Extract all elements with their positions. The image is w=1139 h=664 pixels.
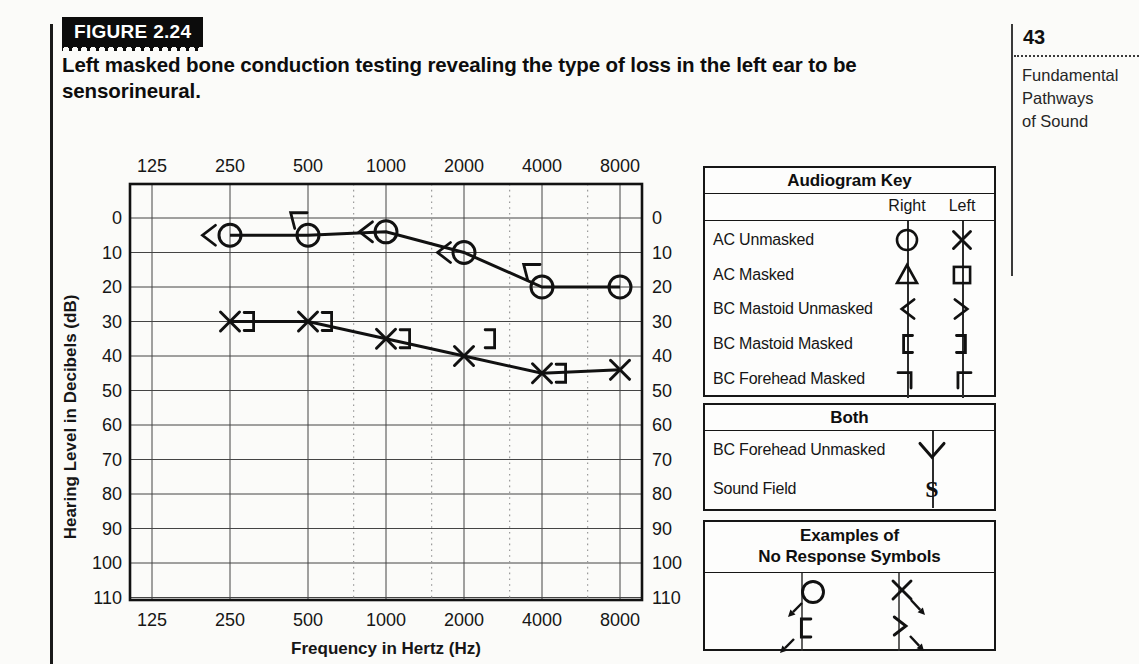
key-row-label: AC Masked bbox=[705, 266, 794, 284]
examples-title-line2: No Response Symbols bbox=[705, 546, 994, 567]
svg-text:20: 20 bbox=[652, 277, 672, 297]
svg-text:250: 250 bbox=[215, 156, 245, 176]
audiogram-key-panel: Audiogram Key Right Left AC Unmasked AC … bbox=[703, 166, 996, 397]
svg-text:110: 110 bbox=[93, 588, 122, 608]
key-rows: AC Unmasked AC Masked BC Mastoid Unmaske… bbox=[705, 221, 994, 398]
svg-text:50: 50 bbox=[652, 381, 672, 401]
left-bc-forehead-masked-icon bbox=[947, 364, 977, 394]
examples-title-line1: Examples of bbox=[705, 525, 994, 546]
no-response-examples-panel: Examples of No Response Symbols bbox=[703, 520, 996, 651]
svg-text:100: 100 bbox=[92, 553, 122, 573]
svg-text:125: 125 bbox=[137, 610, 167, 630]
figure-label-box: FIGURE 2.24 bbox=[62, 17, 203, 51]
right-bc-mastoid-masked-icon bbox=[892, 329, 922, 359]
both-row: Sound Field S bbox=[705, 470, 994, 508]
svg-text:90: 90 bbox=[102, 519, 122, 539]
svg-text:110: 110 bbox=[652, 588, 681, 608]
key-row: BC Forehead Masked bbox=[705, 362, 994, 396]
key-row: BC Mastoid Unmasked bbox=[705, 292, 994, 326]
svg-text:50: 50 bbox=[102, 381, 122, 401]
both-row-label: BC Forehead Unmasked bbox=[705, 441, 885, 459]
key-column-left-header: Left bbox=[949, 197, 976, 215]
svg-text:8000: 8000 bbox=[600, 156, 640, 176]
both-panel: Both BC Forehead Unmasked Sound Field S bbox=[703, 403, 996, 511]
figure-caption: Left masked bone conduction testing reve… bbox=[62, 52, 997, 104]
svg-text:Frequency in Hertz (Hz): Frequency in Hertz (Hz) bbox=[291, 639, 481, 658]
right-bc-forehead-masked-icon bbox=[892, 364, 922, 394]
svg-text:30: 30 bbox=[102, 312, 122, 332]
svg-text:1000: 1000 bbox=[366, 156, 406, 176]
left-bc-mastoid-masked-icon bbox=[947, 329, 977, 359]
svg-text:20: 20 bbox=[102, 277, 122, 297]
svg-text:70: 70 bbox=[102, 450, 122, 470]
svg-text:10: 10 bbox=[652, 243, 672, 263]
right-bc-mastoid-unmasked-icon bbox=[892, 294, 922, 324]
svg-text:1000: 1000 bbox=[366, 610, 406, 630]
svg-text:60: 60 bbox=[102, 415, 122, 435]
svg-text:40: 40 bbox=[102, 346, 122, 366]
audiogram-chart: 1251252502505005001000100020002000400040… bbox=[60, 145, 700, 664]
figure-left-rule bbox=[50, 24, 53, 664]
svg-text:60: 60 bbox=[652, 415, 672, 435]
both-rows: BC Forehead Unmasked Sound Field S bbox=[705, 431, 994, 508]
sound-field-icon: S bbox=[917, 474, 947, 504]
svg-text:4000: 4000 bbox=[522, 610, 562, 630]
margin-dotted-divider bbox=[1014, 55, 1139, 57]
left-ac-masked-icon bbox=[947, 260, 977, 290]
page-number: 43 bbox=[1023, 26, 1045, 49]
examples-panel-title: Examples of No Response Symbols bbox=[705, 522, 994, 573]
svg-text:90: 90 bbox=[652, 519, 672, 539]
figure-label: FIGURE 2.24 bbox=[74, 21, 191, 42]
svg-text:80: 80 bbox=[652, 484, 672, 504]
svg-text:250: 250 bbox=[215, 610, 245, 630]
svg-text:125: 125 bbox=[137, 156, 167, 176]
both-row-label: Sound Field bbox=[705, 480, 796, 498]
right-ac-unmasked-icon bbox=[892, 225, 922, 255]
both-panel-title: Both bbox=[705, 405, 994, 431]
svg-text:2000: 2000 bbox=[444, 610, 484, 630]
key-row-label: AC Unmasked bbox=[705, 231, 814, 249]
svg-text:4000: 4000 bbox=[522, 156, 562, 176]
svg-text:100: 100 bbox=[652, 553, 682, 573]
key-row-label: BC Mastoid Masked bbox=[705, 335, 853, 353]
margin-title: Fundamental Pathways of Sound bbox=[1022, 64, 1118, 132]
both-row: BC Forehead Unmasked bbox=[705, 431, 994, 469]
svg-text:0: 0 bbox=[652, 208, 662, 228]
key-row-label: BC Mastoid Unmasked bbox=[705, 300, 873, 318]
key-panel-header: Right Left bbox=[705, 194, 994, 221]
key-column-right-header: Right bbox=[888, 197, 925, 215]
svg-text:500: 500 bbox=[293, 610, 323, 630]
key-panel-title: Audiogram Key bbox=[705, 168, 994, 194]
svg-text:10: 10 bbox=[102, 243, 122, 263]
svg-text:2000: 2000 bbox=[444, 156, 484, 176]
right-ac-masked-icon bbox=[892, 260, 922, 290]
no-response-symbols-canvas bbox=[705, 573, 994, 651]
svg-text:8000: 8000 bbox=[600, 610, 640, 630]
svg-text:70: 70 bbox=[652, 450, 672, 470]
key-row-label: BC Forehead Masked bbox=[705, 370, 865, 388]
svg-text:0: 0 bbox=[112, 208, 122, 228]
svg-text:Hearing Level in Decibels (dB): Hearing Level in Decibels (dB) bbox=[61, 295, 80, 540]
left-bc-mastoid-unmasked-icon bbox=[947, 294, 977, 324]
svg-text:500: 500 bbox=[293, 156, 323, 176]
margin-rule bbox=[1011, 24, 1013, 276]
bc-forehead-unmasked-icon bbox=[917, 435, 947, 465]
key-row: AC Unmasked bbox=[705, 223, 994, 257]
page-root: { "page": { "number": "43", "margin_titl… bbox=[0, 0, 1139, 664]
svg-text:40: 40 bbox=[652, 346, 672, 366]
svg-text:80: 80 bbox=[102, 484, 122, 504]
left-ac-unmasked-icon bbox=[947, 225, 977, 255]
key-row: BC Mastoid Masked bbox=[705, 327, 994, 361]
svg-text:S: S bbox=[925, 476, 938, 502]
svg-text:30: 30 bbox=[652, 312, 672, 332]
key-row: AC Masked bbox=[705, 258, 994, 292]
